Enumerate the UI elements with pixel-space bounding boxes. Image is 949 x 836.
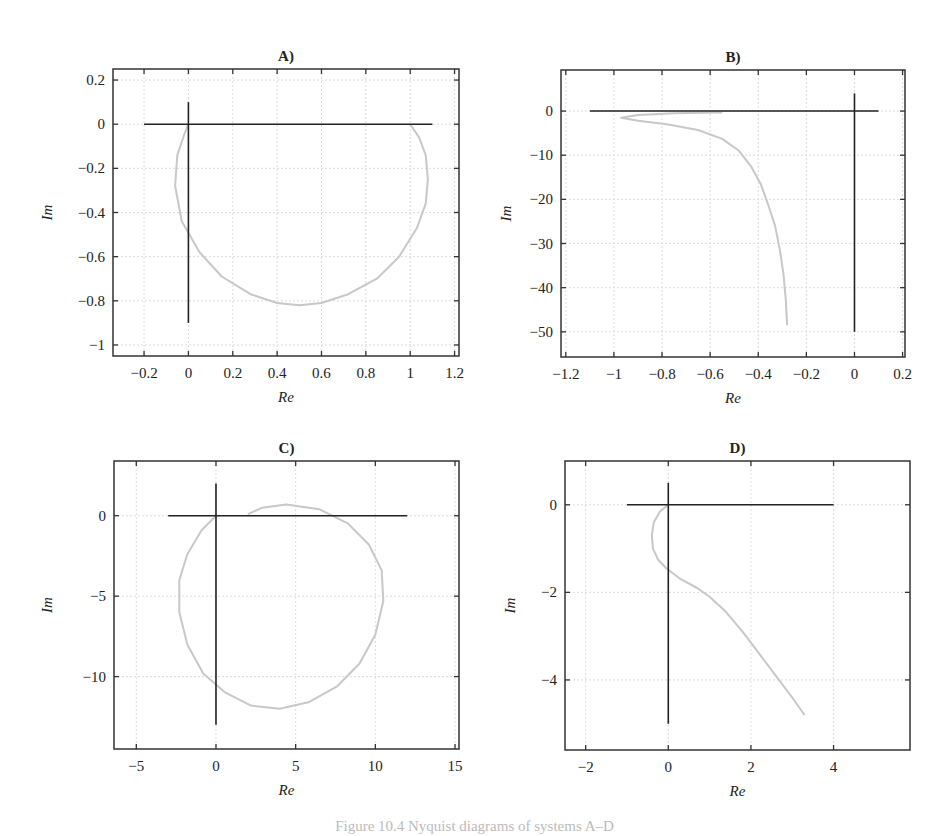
- chart-panel-d: −20240−2−4D)ReIm: [502, 440, 910, 799]
- x-tick-label: −1.2: [552, 366, 579, 382]
- x-tick-label: 15: [448, 758, 463, 774]
- y-tick-label: 0: [98, 116, 106, 132]
- y-tick-label: −50: [530, 324, 553, 340]
- x-tick-label: −0.8: [648, 366, 675, 382]
- y-tick-label: −2: [541, 584, 557, 600]
- y-tick-label: −40: [530, 280, 553, 296]
- y-tick-label: −10: [530, 147, 553, 163]
- figure-caption: Figure 10.4 Nyquist diagrams of systems …: [0, 818, 949, 835]
- x-axis-label: Re: [729, 783, 746, 799]
- y-axis-label: Im: [498, 205, 514, 222]
- y-axis-label: Im: [39, 204, 55, 221]
- nyquist-curve: [175, 124, 428, 305]
- x-tick-label: 0: [212, 758, 220, 774]
- chart-panel-c: −50510150−5−10C)ReIm: [39, 440, 463, 798]
- y-tick-label: 0: [546, 103, 554, 119]
- y-tick-label: 0: [550, 497, 558, 513]
- x-tick-label: 2: [747, 759, 755, 775]
- x-tick-label: 1.2: [445, 365, 464, 381]
- x-tick-label: 0.4: [268, 365, 287, 381]
- x-tick-label: −0.2: [793, 366, 820, 382]
- x-tick-label: −0.6: [697, 366, 725, 382]
- y-tick-label: −20: [530, 191, 553, 207]
- x-tick-label: 4: [830, 759, 838, 775]
- chart-panel-b: −1.2−1−0.8−0.6−0.4−0.200.20−10−20−30−40−…: [498, 49, 912, 406]
- x-axis-label: Re: [277, 389, 294, 405]
- x-tick-label: 5: [292, 758, 300, 774]
- nyquist-curve: [621, 112, 787, 325]
- x-tick-label: 0: [185, 365, 193, 381]
- x-tick-label: −2: [578, 759, 594, 775]
- nyquist-curve: [652, 505, 805, 715]
- y-axis-label: Im: [39, 597, 55, 614]
- nyquist-curve: [179, 504, 383, 708]
- y-tick-label: −0.2: [78, 160, 105, 176]
- y-tick-label: −1: [89, 337, 105, 353]
- x-tick-label: −0.4: [745, 366, 773, 382]
- chart-title: D): [730, 440, 746, 457]
- chart-panel-a: −0.200.20.40.60.811.20.20−0.2−0.4−0.6−0.…: [39, 48, 464, 405]
- x-axis-label: Re: [724, 390, 741, 406]
- x-tick-label: 0.8: [356, 365, 375, 381]
- y-tick-label: 0: [99, 508, 107, 524]
- y-tick-label: −0.6: [78, 249, 106, 265]
- plot-frame: [561, 70, 905, 357]
- y-tick-label: −10: [83, 669, 106, 685]
- y-tick-label: −0.8: [78, 293, 105, 309]
- chart-title: C): [279, 440, 295, 457]
- x-tick-label: −0.2: [130, 365, 157, 381]
- x-tick-label: 0: [851, 366, 859, 382]
- y-tick-label: −4: [541, 672, 557, 688]
- x-tick-label: 0.2: [223, 365, 242, 381]
- x-tick-label: −1: [606, 366, 622, 382]
- x-tick-label: −5: [128, 758, 144, 774]
- y-tick-label: 0.2: [86, 72, 105, 88]
- y-axis-label: Im: [502, 597, 518, 614]
- x-tick-label: 0.6: [312, 365, 331, 381]
- x-tick-label: 0.2: [893, 366, 912, 382]
- figure-canvas: −0.200.20.40.60.811.20.20−0.2−0.4−0.6−0.…: [0, 0, 949, 836]
- x-tick-label: 1: [406, 365, 414, 381]
- y-tick-label: −0.4: [78, 205, 106, 221]
- x-tick-label: 10: [368, 758, 383, 774]
- y-tick-label: −5: [90, 588, 106, 604]
- y-tick-label: −30: [530, 236, 553, 252]
- chart-title: B): [726, 49, 741, 66]
- x-axis-label: Re: [278, 782, 295, 798]
- x-tick-label: 0: [665, 759, 673, 775]
- chart-title: A): [278, 48, 294, 65]
